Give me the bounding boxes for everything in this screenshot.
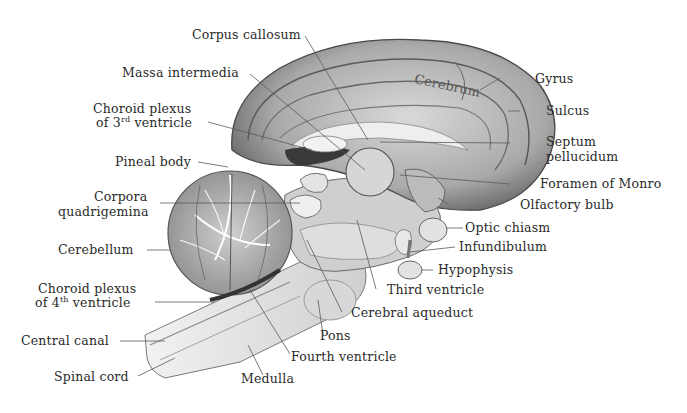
label-choroid-plexus-3rd-line2: of 3rd ventricle: [96, 116, 192, 130]
label-sulcus: Sulcus: [546, 104, 589, 118]
label-optic-chiasm: Optic chiasm: [465, 221, 550, 235]
label-corpora-quadrigemina-line1: Corpora: [94, 190, 147, 204]
label-choroid-plexus-3rd-line1: Choroid plexus: [93, 102, 191, 116]
label-fourth-ventricle: Fourth ventricle: [291, 350, 397, 364]
label-septum-pellucidum-line1: Septum: [546, 135, 596, 149]
label-corpus-callosum: Corpus callosum: [192, 28, 301, 42]
label-pineal-body: Pineal body: [115, 155, 191, 169]
label-spinal-cord: Spinal cord: [54, 370, 129, 384]
label-hypophysis: Hypophysis: [438, 263, 513, 277]
label-cerebellum: Cerebellum: [58, 243, 134, 257]
label-choroid-plexus-4th-line2: of 4th ventricle: [35, 296, 131, 310]
label-massa-intermedia: Massa intermedia: [122, 66, 239, 80]
label-choroid-plexus-4th-line1: Choroid plexus: [38, 282, 136, 296]
brain-diagram: Cerebrum Corpus callosum Massa intermedi…: [0, 0, 687, 413]
label-olfactory-bulb: Olfactory bulb: [520, 198, 614, 212]
hypophysis-shape: [398, 261, 422, 279]
label-pons: Pons: [320, 329, 351, 343]
label-medulla: Medulla: [241, 372, 294, 386]
massa-intermedia-shape: [346, 148, 394, 196]
label-third-ventricle: Third ventricle: [387, 283, 484, 297]
label-corpora-quadrigemina-line2: quadrigemina: [58, 205, 149, 219]
cerebrum-shape: [232, 39, 555, 210]
label-septum-pellucidum-line2: pellucidum: [546, 150, 618, 164]
label-infundibulum: Infundibulum: [459, 240, 547, 254]
optic-chiasm-shape: [419, 218, 447, 242]
label-cerebral-aqueduct: Cerebral aqueduct: [351, 306, 473, 320]
cerebellum-shape: [168, 171, 292, 295]
label-foramen-of-monro: Foramen of Monro: [540, 177, 661, 191]
label-gyrus: Gyrus: [535, 72, 574, 86]
label-central-canal: Central canal: [21, 334, 109, 348]
